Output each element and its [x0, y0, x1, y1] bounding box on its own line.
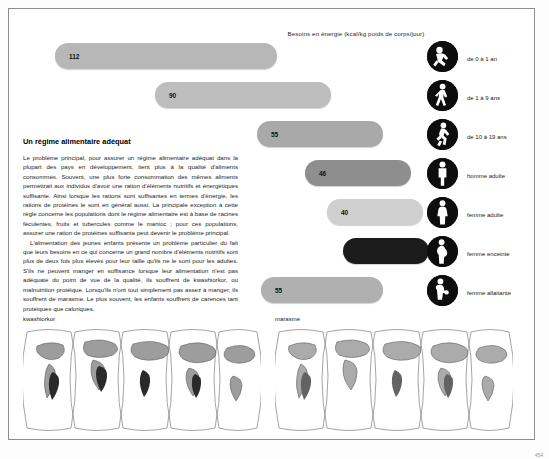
- bar-value-label: 46: [319, 170, 326, 177]
- category-label-homme-adulte: homme adulte: [467, 173, 505, 179]
- pictogram: [427, 80, 459, 112]
- pregnant-woman-icon: [427, 236, 458, 267]
- category-label-femme-allaitante: femme allaitante: [467, 290, 511, 296]
- maps-section: kwashiorkor: [23, 316, 523, 438]
- infographic-page: Besoins en énergie (kcal/kg poids de cor…: [0, 0, 549, 459]
- pictogram: [427, 158, 459, 190]
- bar-de-1-a-9-ans[interactable]: 90: [155, 82, 331, 108]
- pictogram: [427, 119, 459, 151]
- category-label-femme-enceinte: femme enceinte: [467, 251, 510, 257]
- adult-man-icon: [427, 158, 458, 189]
- article-paragraph-2: L'alimentation des jeunes enfants présen…: [23, 238, 238, 313]
- content-frame: Besoins en énergie (kcal/kg poids de cor…: [8, 8, 535, 440]
- bar-value-label: 55: [271, 131, 278, 138]
- pictogram: [427, 275, 459, 307]
- bar-value-label: 55: [275, 287, 282, 294]
- bar-value-label: 90: [169, 92, 176, 99]
- category-label-femme-adulte: femme adulte: [467, 212, 503, 218]
- bar-femme-enceinte[interactable]: [343, 238, 429, 264]
- pictogram: [427, 236, 459, 268]
- map-caption: kwashiorkor: [23, 316, 261, 322]
- child-walking-icon: [427, 80, 458, 111]
- adult-woman-icon: [427, 197, 458, 228]
- world-map-kwashiorkor: [23, 324, 261, 436]
- bar-homme-adulte[interactable]: 46: [305, 160, 411, 186]
- world-map-marasme: [275, 324, 513, 436]
- infant-crawling-icon: [427, 41, 458, 72]
- chart-row: 112 de 0 à 1 an: [9, 39, 534, 78]
- category-label-de-10-a-19-ans: de 10 à 19 ans: [467, 134, 507, 140]
- page-number: 454: [535, 452, 543, 458]
- category-label-de-0-a-1-an: de 0 à 1 an: [467, 56, 497, 62]
- page-title: Un régime alimentaire adéquat: [23, 137, 238, 146]
- pictogram: [427, 197, 459, 229]
- bar-femme-allaitante[interactable]: 55: [261, 277, 383, 303]
- article-block: Un régime alimentaire adéquat Le problèm…: [23, 137, 238, 313]
- bar-de-10-a-19-ans[interactable]: 55: [257, 121, 383, 147]
- article-paragraph-1: Le problème principal, pour assurer un r…: [23, 153, 238, 238]
- breastfeeding-woman-icon: [427, 275, 458, 306]
- map-block-kwashiorkor: kwashiorkor: [23, 316, 261, 438]
- bar-value-label: 40: [341, 209, 348, 216]
- map-block-marasme: marasme: [275, 316, 513, 438]
- bar-value-label: 112: [69, 53, 80, 60]
- map-caption: marasme: [275, 316, 513, 322]
- bar-femme-adulte[interactable]: 40: [327, 199, 423, 225]
- bar-de-0-a-1-an[interactable]: 112: [55, 43, 277, 69]
- chart-title: Besoins en énergie (kcal/kg poids de cor…: [241, 30, 471, 37]
- category-label-de-1-a-9-ans: de 1 à 9 ans: [467, 95, 500, 101]
- pictogram: [427, 41, 459, 73]
- chart-row: 90 de 1 à 9 ans: [9, 78, 534, 117]
- teen-running-icon: [427, 119, 458, 150]
